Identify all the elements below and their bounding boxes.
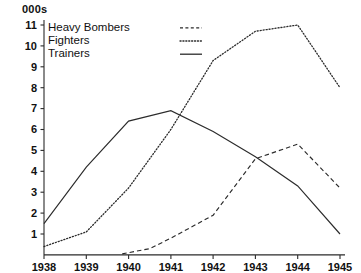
- y-tick-label: 8: [31, 82, 37, 94]
- x-tick-label: 1939: [74, 261, 98, 273]
- y-tick-label: 4: [31, 165, 38, 177]
- series-line-trainers: [44, 111, 340, 234]
- y-tick-label: 3: [31, 186, 37, 198]
- x-tick-label: 1945: [328, 261, 352, 273]
- y-tick-label: 1: [31, 228, 37, 240]
- chart-container: 000s 1234567891011 193819391940194119421…: [0, 0, 361, 273]
- x-tick-label: 1944: [285, 261, 310, 273]
- y-tick-label: 2: [31, 207, 37, 219]
- x-tick-label: 1938: [32, 261, 56, 273]
- y-tick-label: 9: [31, 61, 37, 73]
- y-axis-ticks: 1234567891011: [25, 19, 44, 240]
- x-tick-label: 1942: [201, 261, 225, 273]
- x-tick-label: 1941: [159, 261, 183, 273]
- x-axis-ticks: 19381939194019411942194319441945: [32, 255, 352, 273]
- line-chart-plot: 1234567891011 19381939194019411942194319…: [0, 0, 361, 273]
- legend-label-trainers: Trainers: [48, 47, 90, 59]
- series-line-heavy-bombers: [122, 144, 340, 254]
- legend-label-fighters: Fighters: [48, 34, 90, 46]
- y-tick-label: 11: [25, 19, 37, 31]
- y-tick-label: 7: [31, 102, 37, 114]
- y-tick-label: 5: [31, 144, 37, 156]
- x-tick-label: 1943: [243, 261, 267, 273]
- chart-legend: Heavy BombersFightersTrainers: [48, 21, 202, 59]
- x-tick-label: 1940: [116, 261, 140, 273]
- legend-label-heavy-bombers: Heavy Bombers: [48, 21, 130, 33]
- y-tick-label: 6: [31, 123, 37, 135]
- y-tick-label: 10: [25, 40, 37, 52]
